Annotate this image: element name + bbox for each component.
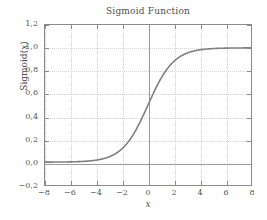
y-tick-label: −0,2 [0, 181, 38, 190]
y-tick-label: 0,0 [0, 158, 38, 167]
x-tick-label: 2 [162, 188, 186, 197]
x-tick-label: 8 [240, 188, 264, 197]
x-tick-label: −4 [84, 188, 108, 197]
y-tick-label: 0,2 [0, 135, 38, 144]
y-axis-label-text: Sigmoid(x) [19, 41, 29, 91]
chart-title: Sigmoid Function [44, 6, 252, 16]
y-axis-label: Sigmoid(x) [19, 1, 29, 131]
x-tick-label: 4 [188, 188, 212, 197]
sigmoid-curve [45, 25, 251, 185]
x-tick-label: −2 [110, 188, 134, 197]
x-tick-label: 0 [136, 188, 160, 197]
plot-area [44, 24, 252, 186]
x-tick-label: −6 [58, 188, 82, 197]
sigmoid-chart-figure: Sigmoid Function −8−6−4−202468 −0,20,00,… [0, 0, 267, 220]
x-tick-label: 6 [214, 188, 238, 197]
x-axis-label: x [44, 199, 252, 209]
